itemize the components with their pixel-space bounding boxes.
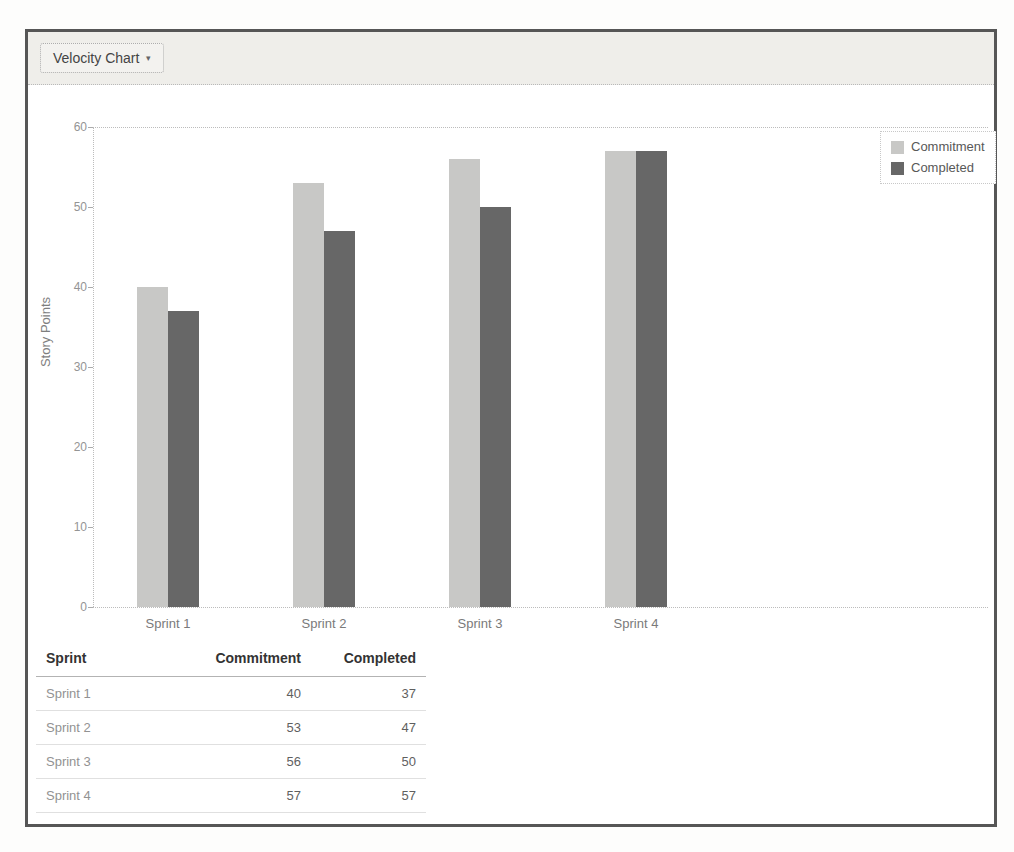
y-tick-mark-0 [88,607,93,608]
panel-inner: Velocity Chart ▾ Story Points 0102030405… [28,32,994,824]
chevron-down-icon: ▾ [146,54,151,63]
x-axis-label-sprint-1: Sprint 1 [118,616,218,631]
cell-completed-value: 37 [311,677,426,711]
y-axis-line [93,127,94,607]
legend-label-commitment: Commitment [911,140,985,154]
cell-sprint-name: Sprint 4 [36,779,186,813]
cell-sprint-name: Sprint 2 [36,711,186,745]
cell-commitment-value: 40 [186,677,311,711]
bar-commitment-sprint-4 [605,151,636,607]
cell-sprint-name: Sprint 3 [36,745,186,779]
legend-item-commitment: Commitment [891,140,985,154]
bar-completed-sprint-1 [168,311,199,607]
bar-commitment-sprint-3 [449,159,480,607]
bar-commitment-sprint-2 [293,183,324,607]
cell-completed-value: 47 [311,711,426,745]
column-header-sprint: Sprint [36,644,186,677]
table-row-sprint-3: Sprint 35650 [36,745,426,779]
velocity-data-table: SprintCommitmentCompletedSprint 14037Spr… [36,644,426,813]
panel-header: Velocity Chart ▾ [28,32,994,85]
legend-item-completed: Completed [891,161,985,175]
bar-completed-sprint-3 [480,207,511,607]
legend: CommitmentCompleted [880,131,996,184]
y-tick-label-0: 0 [43,599,87,615]
cell-commitment-value: 53 [186,711,311,745]
table-row-sprint-2: Sprint 25347 [36,711,426,745]
y-tick-mark-60 [88,127,93,128]
x-axis-label-sprint-4: Sprint 4 [586,616,686,631]
table-header: SprintCommitmentCompleted [36,644,426,677]
y-axis-title: Story Points [38,252,54,412]
bar-completed-sprint-2 [324,231,355,607]
y-tick-label-40: 40 [43,279,87,295]
table-row-sprint-1: Sprint 14037 [36,677,426,711]
legend-swatch-commitment-icon [891,141,904,154]
y-tick-label-50: 50 [43,199,87,215]
y-tick-mark-40 [88,287,93,288]
y-tick-label-60: 60 [43,119,87,135]
y-tick-mark-50 [88,207,93,208]
x-axis-label-sprint-2: Sprint 2 [274,616,374,631]
bar-completed-sprint-4 [636,151,667,607]
column-header-commitment: Commitment [186,644,311,677]
gridline-top [93,127,988,128]
cell-sprint-name: Sprint 1 [36,677,186,711]
cell-completed-value: 57 [311,779,426,813]
table-header-row: SprintCommitmentCompleted [36,644,426,677]
x-axis-baseline [93,607,988,608]
y-tick-label-30: 30 [43,359,87,375]
y-tick-label-10: 10 [43,519,87,535]
y-tick-mark-20 [88,447,93,448]
chart-selector-label: Velocity Chart [53,50,139,66]
table-row-sprint-4: Sprint 45757 [36,779,426,813]
chart-selector-button[interactable]: Velocity Chart ▾ [40,43,164,73]
cell-commitment-value: 57 [186,779,311,813]
legend-swatch-completed-icon [891,162,904,175]
y-tick-mark-10 [88,527,93,528]
y-tick-label-20: 20 [43,439,87,455]
velocity-chart-panel: Velocity Chart ▾ Story Points 0102030405… [25,29,997,827]
cell-commitment-value: 56 [186,745,311,779]
column-header-completed: Completed [311,644,426,677]
cell-completed-value: 50 [311,745,426,779]
legend-label-completed: Completed [911,161,974,175]
x-axis-label-sprint-3: Sprint 3 [430,616,530,631]
y-tick-mark-30 [88,367,93,368]
bar-commitment-sprint-1 [137,287,168,607]
table-body: Sprint 14037Sprint 25347Sprint 35650Spri… [36,677,426,813]
